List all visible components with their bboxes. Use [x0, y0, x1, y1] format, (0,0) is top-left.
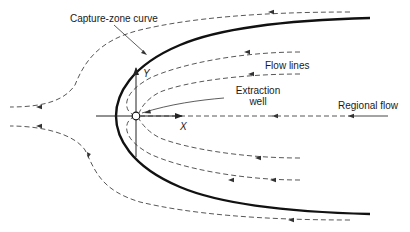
arrow-icon — [270, 178, 276, 182]
capture-zone-leader-arrow-icon — [141, 50, 147, 55]
capture-zone-leader — [114, 25, 145, 53]
capture-zone-label: Capture-zone curve — [70, 13, 158, 24]
arrow-icon — [244, 50, 250, 54]
capture-zone-diagram — [0, 0, 410, 232]
extraction-well-leader — [142, 98, 224, 113]
arrow-icon — [272, 114, 278, 118]
arrow-icon — [348, 114, 354, 118]
flow-line-inner-bottom-2 — [139, 119, 300, 158]
flow-line-outer-bottom — [10, 126, 350, 220]
regional-flow-label: Regional flow — [338, 100, 398, 111]
flow-lines-label: Flow lines — [265, 60, 309, 71]
arrow-icon — [228, 178, 234, 182]
flow-arrowheads — [36, 10, 354, 222]
x-axis-label: X — [180, 121, 187, 132]
extraction-well-label-line1: Extraction — [228, 85, 288, 96]
flow-line-inner-bottom-1 — [127, 116, 300, 180]
extraction-well-label-line2: well — [228, 96, 288, 107]
arrow-icon — [288, 218, 294, 222]
y-axis-label: Y — [143, 68, 150, 79]
arrow-icon — [144, 110, 151, 114]
extraction-well-icon — [132, 112, 140, 120]
